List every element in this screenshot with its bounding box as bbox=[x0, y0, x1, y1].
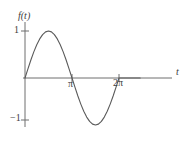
x-tick-label-two-pi: 2π bbox=[113, 78, 123, 88]
y-tick-label-one: 1 bbox=[14, 25, 19, 35]
plot-canvas bbox=[0, 0, 189, 142]
x-tick-label-pi: π bbox=[68, 79, 73, 89]
y-axis-label: f(t) bbox=[18, 11, 30, 21]
sine-wave-figure: f(t) t 1 −1 π 2π bbox=[0, 0, 189, 142]
y-tick-label-negative-one: −1 bbox=[10, 113, 21, 123]
x-axis-label: t bbox=[176, 67, 179, 77]
